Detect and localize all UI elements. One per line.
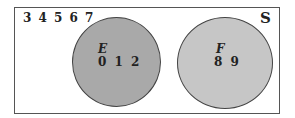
set-f-elements: 8 9 — [214, 55, 240, 69]
outside-elements: 3 4 5 6 7 — [23, 11, 94, 25]
universe-label: S — [260, 9, 271, 27]
set-f-label: F — [216, 42, 225, 56]
set-e-label: E — [98, 42, 107, 56]
set-e-elements: 0 1 2 — [98, 55, 140, 69]
